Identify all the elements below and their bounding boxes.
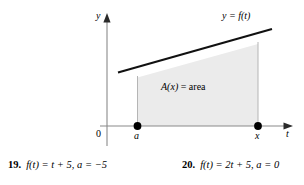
area-equals: = — [178, 81, 189, 92]
origin-label: 0 — [96, 129, 101, 139]
exercise-number: 19. — [8, 159, 21, 170]
area-annotation-label: A(x) = area — [161, 82, 206, 92]
point-label-x: x — [255, 131, 259, 141]
exercise-item-19[interactable]: 19.f(t) = t + 5, a = −5 — [8, 158, 107, 172]
x-axis-label: t — [286, 129, 289, 139]
exercise-text: f(t) = 2t + 5, a = 0 — [200, 159, 279, 170]
exercise-list: 19.f(t) = t + 5, a = −5 20.f(t) = 2t + 5… — [0, 158, 304, 185]
y-axis-arrowhead-icon — [103, 13, 110, 23]
exercise-number: 20. — [182, 159, 195, 170]
figure-page: y t 0 a x y = f(t) A(x) = area 19.f(t) =… — [0, 0, 304, 185]
curve-equation-label: y = f(t) — [222, 11, 250, 21]
point-marker-x — [254, 122, 262, 130]
exercise-item-20[interactable]: 20.f(t) = 2t + 5, a = 0 — [182, 158, 279, 172]
exercise-text: f(t) = t + 5, a = −5 — [26, 159, 107, 170]
area-word: area — [189, 81, 206, 92]
point-marker-a — [134, 122, 142, 130]
area-symbol: A(x) — [161, 81, 178, 92]
calculus-area-figure: y t 0 a x y = f(t) A(x) = area — [0, 0, 304, 152]
y-axis-label: y — [96, 11, 100, 21]
point-label-a: a — [134, 131, 139, 141]
